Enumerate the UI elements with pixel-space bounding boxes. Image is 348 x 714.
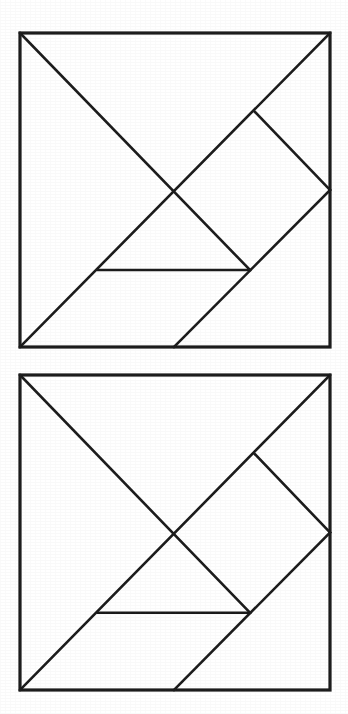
tangram-diagram-top (0, 0, 348, 360)
page-root (0, 0, 348, 714)
tangram-figure-top (0, 0, 348, 360)
tangram-figure-bottom (0, 355, 348, 714)
tangram-diagram-bottom (0, 355, 348, 714)
